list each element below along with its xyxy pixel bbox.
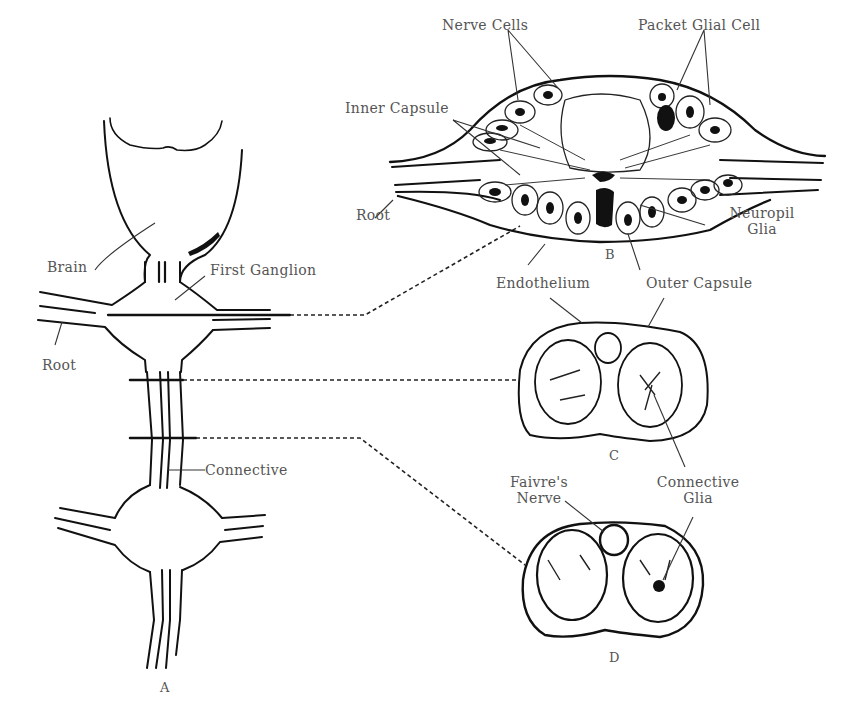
label-packet-glial-cell: Packet Glial Cell: [638, 17, 760, 33]
panel-label-a: A: [160, 680, 169, 695]
label-neuropil-glia-line2: Glia: [727, 221, 797, 237]
label-faivres-nerve-line2: Nerve: [496, 490, 582, 506]
label-connective-glia-line1: Connective: [645, 474, 751, 490]
label-connective-glia-line2: Glia: [645, 490, 751, 506]
label-inner-capsule: Inner Capsule: [345, 100, 449, 116]
panel-label-b: B: [605, 247, 615, 262]
label-faivres-nerve: Faivre's Nerve: [496, 474, 582, 506]
label-root-a: Root: [42, 357, 76, 373]
label-connective: Connective: [205, 462, 288, 478]
panel-c-connective-section: [519, 322, 708, 441]
panel-a-nerve-cord: [38, 118, 290, 668]
label-endothelium: Endothelium: [496, 275, 590, 291]
label-nerve-cells: Nerve Cells: [442, 17, 528, 33]
label-first-ganglion: First Ganglion: [210, 262, 316, 278]
label-neuropil-glia: Neuropil Glia: [727, 205, 797, 237]
label-faivres-nerve-line1: Faivre's: [496, 474, 582, 490]
panel-label-c: C: [609, 448, 619, 463]
panel-d-connective-section: [523, 522, 703, 637]
panel-label-d: D: [609, 650, 619, 665]
label-neuropil-glia-line1: Neuropil: [727, 205, 797, 221]
panel-b-leaders: [375, 30, 710, 270]
label-brain: Brain: [47, 259, 87, 275]
label-root-b: Root: [356, 207, 390, 223]
label-outer-capsule: Outer Capsule: [646, 275, 752, 291]
label-connective-glia: Connective Glia: [645, 474, 751, 506]
